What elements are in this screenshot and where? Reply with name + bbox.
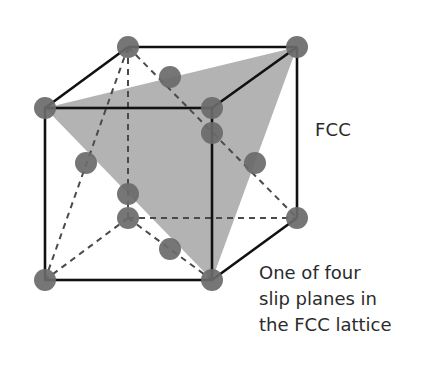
corner-atom	[201, 97, 223, 119]
corner-atom	[34, 269, 56, 291]
corner-atom	[286, 36, 308, 58]
corner-atom	[286, 207, 308, 229]
corner-atom	[34, 97, 56, 119]
face-center-atom	[159, 238, 181, 260]
face-center-atom	[201, 122, 223, 144]
corner-atom	[117, 207, 139, 229]
fcc-label: FCC	[315, 119, 351, 140]
face-center-atom	[244, 152, 266, 174]
caption-line: the FCC lattice	[259, 312, 392, 338]
caption-line: One of four	[259, 260, 392, 286]
slip-plane-caption: One of four slip planes in the FCC latti…	[259, 260, 392, 338]
face-center-atom	[117, 183, 139, 205]
corner-atom	[201, 269, 223, 291]
face-center-atom	[159, 66, 181, 88]
face-center-atom	[75, 152, 97, 174]
corner-atom	[117, 36, 139, 58]
caption-line: slip planes in	[259, 286, 392, 312]
